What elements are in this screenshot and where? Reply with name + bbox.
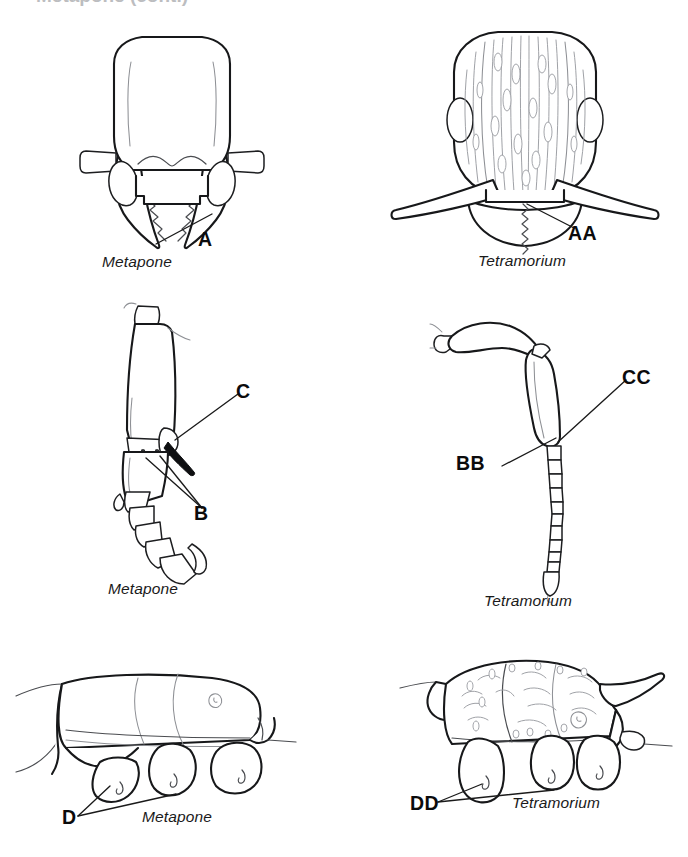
propodeal-spine: [600, 673, 664, 706]
funiculus: [543, 446, 563, 596]
header-remnant-label: Metapone (cont.): [36, 0, 188, 7]
right-compound-eye: [577, 98, 603, 142]
left-compound-eye: [447, 98, 473, 142]
head-capsule: [114, 37, 230, 170]
callout-label-cc: CC: [622, 366, 651, 389]
mid-coxa: [531, 736, 574, 790]
funicular-segment-6: [551, 514, 563, 526]
caption-tetramorium-antenna: Tetramorium: [484, 592, 572, 610]
funicular-segment-8: [549, 540, 562, 552]
funicular-segment-5: [551, 502, 563, 514]
fore-coxa: [459, 739, 504, 803]
callout-label-d: D: [62, 806, 76, 829]
condyle-hair: [430, 324, 442, 332]
femur-stub: [135, 306, 160, 324]
callout-label-aa: AA: [568, 222, 597, 245]
caption-metapone-mesosoma: Metapone: [142, 808, 212, 826]
head-fragment: [400, 682, 436, 688]
caption-metapone-leg: Metapone: [108, 580, 178, 598]
callout-label-a: A: [198, 228, 212, 251]
panel-tetramorium-antenna: CC BB Tetramorium: [430, 310, 660, 610]
clypeal-plate: [136, 176, 208, 204]
panel-metapone-leg: C B Metapone: [80, 302, 300, 602]
metapone-leg-drawing: [80, 302, 300, 602]
funicular-segment-7: [550, 526, 562, 540]
callout-leader-c: [175, 394, 238, 440]
petiole-attachment: [268, 740, 296, 742]
callout-label-c: C: [236, 380, 250, 403]
callout-leader-cc: [558, 380, 626, 442]
funicular-segment-4: [550, 488, 563, 502]
caption-tetramorium-mesosoma: Tetramorium: [512, 794, 600, 812]
clypeus-lower-edge: [486, 190, 564, 202]
tarsal-lobe: [114, 494, 124, 511]
funicular-segment-3: [549, 474, 562, 488]
funicular-segment-2: [548, 460, 562, 474]
tetramorium-mesosoma-drawing: [372, 640, 684, 850]
hind-coxa: [577, 736, 620, 790]
panel-tetramorium-head: AA Tetramorium: [390, 12, 660, 262]
cropped-header-text: Metapone (cont.): [0, 0, 688, 9]
funicular-segment-9: [548, 552, 561, 562]
panel-metapone-mesosoma: D Metapone: [6, 648, 326, 848]
metapone-head-drawing: [52, 18, 292, 258]
callout-label-b: B: [194, 502, 208, 525]
tetramorium-head-drawing: [390, 12, 660, 262]
head-fragment-top: [16, 684, 62, 696]
head-fragment-bottom: [16, 744, 56, 772]
funicular-segment-10: [547, 562, 560, 572]
callout-label-dd: DD: [410, 792, 439, 815]
panel-tetramorium-mesosoma: DD Tetramorium: [372, 640, 684, 850]
funicular-segment-1: [547, 446, 561, 460]
comparison-plate: Metapone (cont.): [0, 0, 688, 857]
panel-metapone-head: A Metapone: [52, 18, 292, 258]
scape-proximal: [449, 323, 541, 358]
femur-hair: [124, 303, 136, 308]
caption-tetramorium-head: Tetramorium: [478, 252, 566, 270]
callout-label-bb: BB: [456, 452, 485, 475]
gaster-attachment: [644, 744, 672, 746]
petiole-fragment: [620, 731, 645, 750]
caption-metapone-head: Metapone: [102, 253, 172, 271]
hind-coxa: [211, 743, 261, 794]
